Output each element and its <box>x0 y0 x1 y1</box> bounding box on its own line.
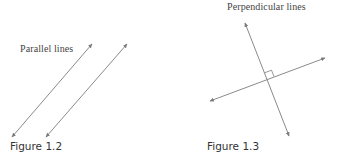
parallel-lines-label: Parallel lines <box>20 43 73 54</box>
figure-1-2-caption: Figure 1.2 <box>10 140 62 152</box>
perpendicular-lines-label: Perpendicular lines <box>227 1 306 12</box>
figure-1-3-panel: Perpendicular lines Figure 1.3 <box>170 0 339 155</box>
parallel-lines-diagram <box>0 0 170 155</box>
figure-1-3-caption: Figure 1.3 <box>207 140 259 152</box>
perpendicular-line-shallow <box>210 58 325 101</box>
parallel-line-1 <box>12 44 92 137</box>
figure-1-2-panel: Parallel lines Figure 1.2 <box>0 0 170 155</box>
perpendicular-lines-diagram <box>170 0 339 155</box>
parallel-line-2 <box>46 44 127 137</box>
